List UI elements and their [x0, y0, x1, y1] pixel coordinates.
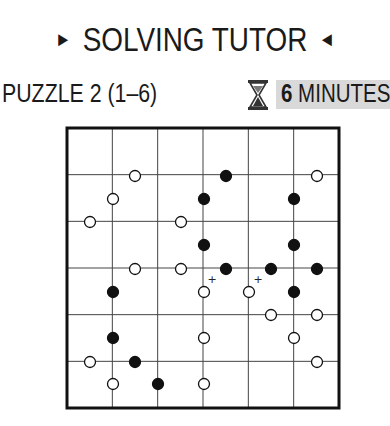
white-circle: [108, 379, 119, 390]
white-circle: [176, 264, 187, 275]
black-circle: [130, 357, 141, 368]
white-circle: [289, 333, 300, 344]
white-circle: [199, 333, 210, 344]
black-circle: [289, 287, 300, 298]
black-circle: [108, 333, 119, 344]
black-circle: [289, 194, 300, 205]
white-circle: [130, 171, 141, 182]
black-circle: [153, 379, 164, 390]
black-circle: [312, 264, 323, 275]
white-circle: [244, 287, 255, 298]
white-circle: [199, 379, 210, 390]
white-circle: [312, 171, 323, 182]
black-circle: [199, 194, 210, 205]
black-circle: [289, 240, 300, 251]
plus-marker: +: [253, 273, 262, 286]
puzzle-grid[interactable]: ++: [0, 0, 390, 426]
white-circle: [85, 217, 96, 228]
white-circle: [85, 357, 96, 368]
black-circle: [221, 264, 232, 275]
white-circle: [130, 264, 141, 275]
white-circle: [266, 310, 277, 321]
black-circle: [221, 171, 232, 182]
black-circle: [199, 240, 210, 251]
white-circle: [199, 287, 210, 298]
white-circle: [176, 217, 187, 228]
plus-marker: +: [207, 273, 216, 286]
white-circle: [312, 310, 323, 321]
black-circle: [108, 287, 119, 298]
black-circle: [266, 264, 277, 275]
white-circle: [312, 357, 323, 368]
white-circle: [108, 194, 119, 205]
